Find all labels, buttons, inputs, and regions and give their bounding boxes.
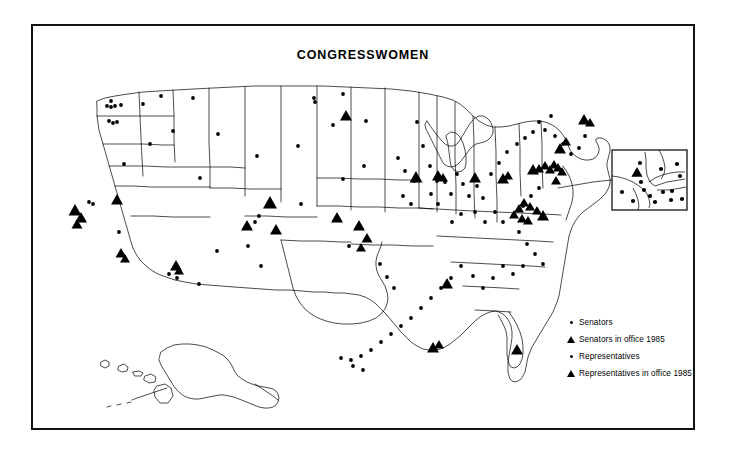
legend-label: Senators in office 1985 xyxy=(579,335,665,344)
dot-marker xyxy=(361,368,365,372)
alaska-aleutians xyxy=(107,402,131,407)
florida-outline xyxy=(498,312,523,368)
dot-marker xyxy=(505,150,509,154)
dot-marker xyxy=(525,242,529,246)
legend-item-representatives-1985: Representatives in office 1985 xyxy=(563,365,723,381)
dot-marker xyxy=(497,161,501,165)
dot-marker xyxy=(351,364,355,368)
state-line-v3 xyxy=(209,88,210,188)
hawaii-maui xyxy=(144,374,156,383)
dot-marker xyxy=(455,172,459,176)
dot-marker xyxy=(537,186,541,190)
dot-marker xyxy=(117,230,121,234)
dot-icon xyxy=(563,321,579,324)
dot-marker xyxy=(215,249,219,253)
map-markers xyxy=(69,92,596,372)
triangle-marker xyxy=(434,340,444,349)
dot-marker xyxy=(529,194,533,198)
hawaii-kauai xyxy=(101,360,109,368)
dot-marker xyxy=(255,154,259,158)
state-line-v14 xyxy=(519,124,521,196)
state-line-h15 xyxy=(463,286,519,289)
dot-marker xyxy=(533,252,537,256)
triangle-marker xyxy=(551,176,561,185)
dot-marker xyxy=(347,244,351,248)
dot-marker xyxy=(331,123,335,127)
dot-marker xyxy=(511,272,515,276)
alaska-panhandle xyxy=(255,384,278,400)
dot-marker xyxy=(543,128,547,132)
triangle-marker xyxy=(111,194,123,205)
great-lakes-outline xyxy=(425,116,493,167)
dot-marker xyxy=(521,264,525,268)
state-line-v11 xyxy=(455,102,456,214)
state-line-h14 xyxy=(451,262,545,267)
dot-marker xyxy=(339,356,343,360)
state-line-v13 xyxy=(495,127,497,222)
triangle-marker xyxy=(353,220,365,231)
dot-marker xyxy=(489,172,493,176)
dot-marker xyxy=(341,177,345,181)
inset-dot xyxy=(661,190,665,194)
dot-marker xyxy=(481,286,485,290)
triangle-marker xyxy=(69,204,82,216)
dot-marker xyxy=(364,119,368,123)
inset-dot xyxy=(631,199,635,203)
dot-marker xyxy=(299,202,303,206)
inset-dot xyxy=(648,194,652,198)
dot-marker xyxy=(428,164,432,168)
dot-marker xyxy=(396,156,400,160)
inset-dot xyxy=(680,197,684,201)
inset-dot xyxy=(669,198,673,202)
dot-marker xyxy=(421,144,425,148)
dot-marker xyxy=(501,264,505,268)
dot-marker xyxy=(461,182,465,186)
dot-marker xyxy=(515,142,519,146)
dot-marker xyxy=(87,200,91,204)
dot-marker xyxy=(583,134,587,138)
dot-marker xyxy=(577,146,581,150)
dot-marker xyxy=(111,121,115,125)
inset-dot xyxy=(620,190,624,194)
dot-marker xyxy=(450,220,454,224)
state-outlines xyxy=(97,86,612,408)
lake-michigan xyxy=(446,132,466,172)
dot-marker xyxy=(362,164,366,168)
triangle-marker xyxy=(469,172,481,183)
inset-dot xyxy=(659,167,663,171)
dot-marker xyxy=(257,214,261,218)
dot-marker xyxy=(379,340,383,344)
dot-marker xyxy=(119,103,123,107)
dot-marker xyxy=(429,192,433,196)
hawaii-bigisland xyxy=(154,384,173,403)
dot-marker xyxy=(409,316,413,320)
inset-dot xyxy=(639,180,643,184)
state-line-h4 xyxy=(115,186,210,187)
state-line-h3 xyxy=(109,166,245,168)
state-line-v12 xyxy=(473,116,475,218)
dot-marker xyxy=(359,354,363,358)
dot-marker xyxy=(531,130,535,134)
inset-dot xyxy=(642,188,646,192)
dot-marker xyxy=(197,282,201,286)
alaska-peninsula xyxy=(132,388,167,400)
dot-marker xyxy=(259,264,263,268)
dot-marker xyxy=(109,105,113,109)
dot-marker xyxy=(392,286,396,290)
dot-marker xyxy=(246,244,250,248)
state-line-h8 xyxy=(281,240,351,242)
state-line-h11 xyxy=(351,244,433,246)
legend-item-representatives: Representatives xyxy=(563,348,723,364)
inset-dot xyxy=(638,161,642,165)
inset-dot xyxy=(653,200,657,204)
dot-marker xyxy=(148,142,152,146)
dot-marker xyxy=(459,264,463,268)
triangle-marker xyxy=(340,110,352,121)
dot-marker xyxy=(541,262,545,266)
triangle-marker xyxy=(511,344,523,355)
dot-marker xyxy=(569,152,573,156)
dot-marker xyxy=(553,134,557,138)
state-line-h10 xyxy=(317,206,433,209)
dot-marker xyxy=(491,276,495,280)
triangle-marker xyxy=(561,137,571,146)
